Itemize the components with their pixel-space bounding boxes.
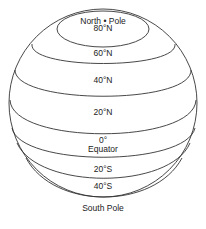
latitude-60n-label: 60°N xyxy=(94,48,113,58)
equator-label: Equator xyxy=(88,144,118,154)
latitude-40s-label: 40°S xyxy=(94,181,113,191)
latitude-20s-label: 20°S xyxy=(94,164,113,174)
south-pole-label: South Pole xyxy=(82,203,124,213)
globe-diagram: North • Pole 80°N 60°N 40°N 20°N 0° Equa… xyxy=(0,0,206,229)
latitude-80n-label: 80°N xyxy=(94,23,113,33)
latitude-20n-label: 20°N xyxy=(94,107,113,117)
latitude-40n-label: 40°N xyxy=(94,75,113,85)
